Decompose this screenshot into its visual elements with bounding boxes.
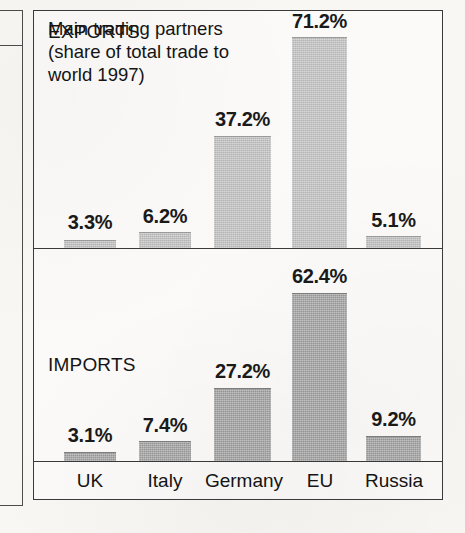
bar-slot-exports-italy: 6.2% xyxy=(139,232,191,248)
bar-value-imports-russia: 9.2% xyxy=(350,408,437,431)
axis-tick-germany: Germany xyxy=(198,470,290,492)
bar-slot-imports-uk: 3.1% xyxy=(64,452,116,461)
plot-area-exports: 3.3% 6.2% 37.2% 71.2% 5.1% xyxy=(34,11,442,248)
bar-exports-eu[interactable] xyxy=(292,37,347,248)
bar-imports-germany[interactable] xyxy=(214,388,271,461)
bar-value-exports-eu: 71.2% xyxy=(276,10,363,33)
bar-slot-exports-eu: 71.2% xyxy=(292,37,347,248)
plot-area-imports: 3.1% 7.4% 27.2% 62.4% 9.2% xyxy=(34,249,442,461)
bar-value-exports-germany: 37.2% xyxy=(198,108,287,131)
bar-imports-uk[interactable] xyxy=(64,452,116,461)
bar-slot-exports-uk: 3.3% xyxy=(64,240,116,248)
bar-exports-germany[interactable] xyxy=(214,136,271,248)
panel-exports: Main trading partners (share of total tr… xyxy=(34,11,442,249)
chart-page: Main trading partners (share of total tr… xyxy=(0,0,465,533)
bar-exports-russia[interactable] xyxy=(366,236,421,248)
bar-slot-imports-italy: 7.4% xyxy=(139,441,191,461)
bar-slot-imports-russia: 9.2% xyxy=(366,436,421,461)
axis-tick-italy: Italy xyxy=(130,470,200,492)
bar-slot-imports-eu: 62.4% xyxy=(292,293,347,461)
bar-value-imports-uk: 3.1% xyxy=(48,424,132,447)
panel-imports: IMPORTS 3.1% 7.4% 27.2% 62.4% xyxy=(34,249,442,462)
bar-value-exports-uk: 3.3% xyxy=(48,211,132,234)
bar-imports-italy[interactable] xyxy=(139,441,191,461)
bar-value-imports-germany: 27.2% xyxy=(198,360,287,383)
axis-label-row: UK Italy Germany EU Russia xyxy=(34,462,442,497)
axis-tick-russia: Russia xyxy=(352,470,436,492)
bar-slot-exports-germany: 37.2% xyxy=(214,136,271,248)
bar-value-exports-russia: 5.1% xyxy=(350,209,437,232)
adjacent-frame-divider xyxy=(0,45,23,46)
bar-imports-russia[interactable] xyxy=(366,436,421,461)
adjacent-cropped-frame xyxy=(0,10,23,506)
chart-frame: Main trading partners (share of total tr… xyxy=(33,10,443,500)
bar-value-imports-eu: 62.4% xyxy=(276,265,363,288)
bar-value-imports-italy: 7.4% xyxy=(123,414,207,437)
bar-imports-eu[interactable] xyxy=(292,293,347,461)
bar-slot-imports-germany: 27.2% xyxy=(214,388,271,461)
axis-tick-eu: EU xyxy=(290,470,350,492)
bar-value-exports-italy: 6.2% xyxy=(123,205,207,228)
bar-slot-exports-russia: 5.1% xyxy=(366,236,421,248)
bar-exports-italy[interactable] xyxy=(139,232,191,248)
bar-exports-uk[interactable] xyxy=(64,240,116,248)
axis-tick-uk: UK xyxy=(54,470,126,492)
